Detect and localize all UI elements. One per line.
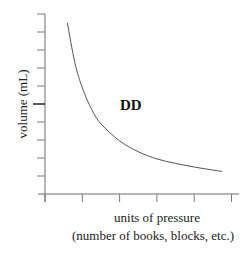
x-axis-sublabel: (number of books, blocks, etc.) [72, 228, 234, 243]
x-axis-label: units of pressure [114, 210, 200, 225]
chart: DD volume (mL) units of pressure (number… [0, 0, 251, 253]
annotation-label: DD [120, 97, 142, 113]
y-axis-label: volume (mL) [15, 70, 30, 139]
data-curve [67, 23, 222, 172]
